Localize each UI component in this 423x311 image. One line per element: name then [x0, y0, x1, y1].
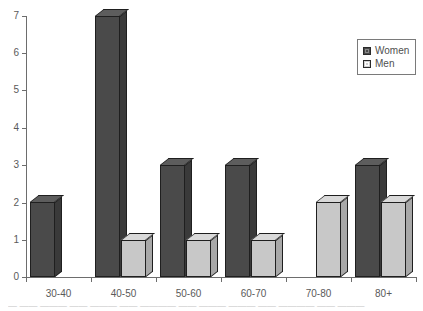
bar-men-40-50[interactable]: [121, 240, 146, 277]
y-tick-label-2: 2: [0, 198, 19, 208]
bar-face: [186, 240, 211, 277]
bar-face: [95, 16, 120, 277]
y-tick-mark-2: [22, 203, 27, 204]
y-tick-mark-7: [22, 16, 27, 17]
y-tick-label-3: 3: [0, 160, 19, 170]
x-tick-mark-1: [91, 277, 92, 282]
x-tick-label-50-60: 50-60: [156, 288, 221, 299]
x-tick-mark-5: [351, 277, 352, 282]
bar-face: [121, 240, 146, 277]
bar-side: [146, 234, 153, 277]
bar-women-50-60[interactable]: [160, 165, 185, 277]
bar-side: [55, 197, 62, 277]
legend-label-men: Men: [375, 58, 394, 69]
bar-face: [30, 202, 55, 277]
x-tick-label-30-40: 30-40: [26, 288, 91, 299]
y-tick-mark-4: [22, 128, 27, 129]
bar-side: [406, 197, 413, 277]
legend-item-men[interactable]: Men: [363, 57, 409, 70]
bar-women-40-50[interactable]: [95, 16, 120, 277]
bar-face: [225, 165, 250, 277]
y-tick-mark-6: [22, 53, 27, 54]
bar-women-60-70[interactable]: [225, 165, 250, 277]
x-tick-mark-end: [416, 277, 417, 282]
bar-face: [251, 240, 276, 277]
x-tick-label-60-70: 60-70: [221, 288, 286, 299]
x-tick-mark-2: [156, 277, 157, 282]
bar-side: [341, 197, 348, 277]
legend-item-women[interactable]: Women: [363, 44, 409, 57]
y-tick-label-5: 5: [0, 85, 19, 95]
bar-face: [160, 165, 185, 277]
x-tick-mark-4: [286, 277, 287, 282]
caption-strip: — —— ——— —— ——— —— ———— —— ——— ——— —— ——…: [8, 303, 415, 311]
x-tick-mark-3: [221, 277, 222, 282]
y-tick-label-6: 6: [0, 48, 19, 58]
x-tick-label-40-50: 40-50: [91, 288, 156, 299]
bar-side: [211, 234, 218, 277]
men-swatch-icon: [363, 60, 371, 68]
legend-label-women: Women: [375, 45, 409, 56]
bar-men-80+[interactable]: [381, 202, 406, 277]
y-tick-mark-5: [22, 90, 27, 91]
y-tick-mark-3: [22, 165, 27, 166]
y-tick-label-4: 4: [0, 123, 19, 133]
legend: Women Men: [357, 39, 416, 75]
y-tick-label-1: 1: [0, 235, 19, 245]
bar-face: [381, 202, 406, 277]
bar-women-80+[interactable]: [355, 165, 380, 277]
x-tick-label-80plus: 80+: [351, 288, 416, 299]
y-axis-line: [26, 16, 27, 278]
x-tick-mark-start: [26, 277, 27, 282]
bar-men-70-80[interactable]: [316, 202, 341, 277]
women-swatch-icon: [363, 47, 371, 55]
bar-face: [355, 165, 380, 277]
bar-men-60-70[interactable]: [251, 240, 276, 277]
x-tick-label-70-80: 70-80: [286, 288, 351, 299]
bar-men-50-60[interactable]: [186, 240, 211, 277]
bar-chart: 7 6 5 4 3 2 1 0 30-40 40-50 50-60 60-70 …: [0, 0, 423, 311]
caption-text: — —— ——— —— ——— —— ———— —— ——— ——— —— ——…: [8, 303, 415, 311]
bar-side: [276, 234, 283, 277]
bar-women-30-40[interactable]: [30, 202, 55, 277]
y-tick-mark-1: [22, 240, 27, 241]
bar-face: [316, 202, 341, 277]
y-tick-label-0: 0: [0, 272, 19, 282]
y-tick-label-7: 7: [0, 11, 19, 21]
